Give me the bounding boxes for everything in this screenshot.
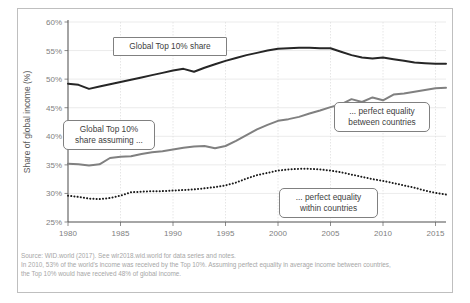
y-axis-title: Share of global income (%)	[22, 71, 32, 174]
svg-text:2005: 2005	[322, 229, 340, 238]
svg-text:1980: 1980	[59, 229, 77, 238]
svg-text:1995: 1995	[217, 229, 235, 238]
svg-text:2000: 2000	[269, 229, 287, 238]
svg-text:55%: 55%	[46, 47, 62, 56]
chart-footnotes: Source: WID.world (2017). See wir2018.wi…	[21, 251, 445, 279]
svg-text:30%: 30%	[46, 189, 62, 198]
svg-text:35%: 35%	[46, 161, 62, 170]
callout-equality-within-countries: ... perfect equality within countries	[279, 188, 378, 218]
svg-text:45%: 45%	[46, 104, 62, 113]
svg-text:50%: 50%	[46, 75, 62, 84]
svg-text:1985: 1985	[112, 229, 130, 238]
svg-text:2015: 2015	[427, 229, 445, 238]
x-axis-ticks: 19801985199019952000200520102015	[59, 222, 445, 238]
footnote-line-2: In 2010, 53% of the world's income was r…	[21, 260, 445, 269]
svg-text:40%: 40%	[46, 132, 62, 141]
svg-text:25%: 25%	[46, 218, 62, 227]
footnote-line-3: the Top 10% would have received 48% of g…	[21, 269, 445, 278]
callout-global-top-10-share: Global Top 10% share	[113, 37, 227, 56]
chart-figure: 25%30%35%40%45%50%55%60% 198019851990199…	[0, 0, 470, 303]
callout-equality-between-countries: ... perfect equality between countries	[334, 102, 430, 132]
svg-text:60%: 60%	[46, 18, 62, 27]
footnote-source: Source: WID.world (2017). See wir2018.wi…	[21, 251, 445, 260]
callout-share-assuming: Global Top 10% share assuming ...	[63, 120, 155, 150]
svg-text:2010: 2010	[374, 229, 392, 238]
svg-text:1990: 1990	[164, 229, 182, 238]
